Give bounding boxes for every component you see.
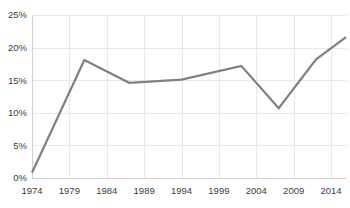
x-axis-tick-label: 2004 [246,185,267,196]
x-axis-tick-label: 1974 [21,185,42,196]
chart-canvas: 0%5%10%15%20%25% 19741979198419891994199… [0,0,350,208]
gridlines-horizontal [32,16,346,179]
x-axis-tick-label: 2014 [320,185,341,196]
data-series-group [32,37,346,173]
x-axis-tick-label: 1989 [134,185,155,196]
x-axis-tick-labels: 197419791984198919941999200420092014 [21,185,341,196]
x-axis-tick-label: 1999 [208,185,229,196]
y-axis-tick-label: 15% [8,75,28,86]
data-line-series-1 [32,37,346,173]
y-axis-tick-label: 20% [8,42,28,53]
y-axis-tick-label: 10% [8,107,28,118]
y-axis-tick-label: 25% [8,9,28,20]
y-axis-tick-label: 0% [13,172,27,183]
x-axis-tick-label: 2009 [283,185,304,196]
x-axis-tick-label: 1984 [96,185,117,196]
y-axis-tick-label: 5% [13,140,27,151]
x-axis-tick-label: 1979 [59,185,80,196]
axis-lines [32,15,346,179]
line-chart: 0%5%10%15%20%25% 19741979198419891994199… [0,0,350,208]
y-axis-tick-labels: 0%5%10%15%20%25% [8,9,28,183]
x-axis-tick-label: 1994 [171,185,192,196]
